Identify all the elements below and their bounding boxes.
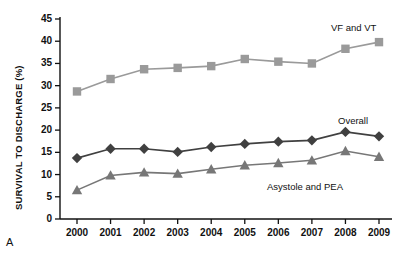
data-point xyxy=(374,131,384,141)
data-point xyxy=(240,139,250,149)
y-axis-ticks xyxy=(55,19,60,219)
y-tick-label: 30 xyxy=(22,80,52,91)
series-label: Overall xyxy=(338,115,368,126)
data-point xyxy=(72,153,82,163)
data-point xyxy=(375,38,383,46)
data-point xyxy=(106,75,114,83)
data-point xyxy=(308,59,316,67)
y-tick-label: 40 xyxy=(22,35,52,46)
chart-canvas xyxy=(0,0,402,258)
y-tick-label: 25 xyxy=(22,102,52,113)
figure-panel-a: SURVIVAL TO DISCHARGE (%) 05101520253035… xyxy=(0,0,402,258)
panel-label: A xyxy=(6,236,13,248)
data-point xyxy=(72,185,82,194)
data-point xyxy=(139,144,149,154)
series-label: VF and VT xyxy=(331,22,376,33)
series-label: Asystole and PEA xyxy=(267,181,343,192)
y-tick-label: 20 xyxy=(22,124,52,135)
data-point xyxy=(340,146,350,155)
y-tick-label: 45 xyxy=(22,13,52,24)
data-point xyxy=(206,142,216,152)
series-overall xyxy=(72,127,384,164)
data-point xyxy=(140,65,148,73)
data-point xyxy=(105,144,115,154)
data-point xyxy=(172,147,182,157)
series-line xyxy=(77,42,379,91)
x-tick-label: 2009 xyxy=(359,227,399,238)
data-point xyxy=(207,62,215,70)
y-tick-label: 15 xyxy=(22,146,52,157)
data-point xyxy=(173,64,181,72)
y-tick-label: 10 xyxy=(22,169,52,180)
data-point xyxy=(73,87,81,95)
y-tick-label: 0 xyxy=(22,213,52,224)
data-point xyxy=(241,55,249,63)
data-point xyxy=(341,45,349,53)
y-tick-label: 5 xyxy=(22,191,52,202)
series-vf-and-vt xyxy=(73,38,383,96)
data-point xyxy=(274,57,282,65)
data-point xyxy=(340,127,350,137)
x-axis-ticks xyxy=(77,219,379,224)
data-point xyxy=(307,135,317,145)
data-point xyxy=(273,136,283,146)
y-tick-label: 35 xyxy=(22,57,52,68)
